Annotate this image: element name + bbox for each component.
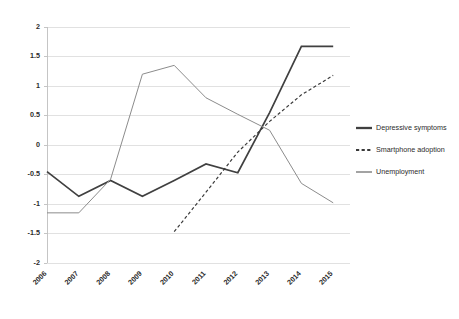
y-axis-tick-labels: 21.510.50-0.5-1-1.5-2 — [28, 22, 40, 267]
x-tick-label: 2014 — [285, 269, 303, 287]
series-line-depressive-symptoms — [47, 46, 333, 196]
line-chart: 21.510.50-0.5-1-1.5-2 200620072008200920… — [0, 0, 459, 319]
y-tick-label: 1.5 — [30, 51, 40, 60]
x-tick-label: 2009 — [126, 269, 144, 287]
legend-item-label: Smartphone adoption — [376, 145, 445, 154]
x-tick-label: 2007 — [63, 269, 81, 287]
series-line-smartphone-adoption — [174, 75, 333, 231]
x-tick-label: 2006 — [31, 269, 49, 287]
legend-item-label: Depressive symptoms — [376, 123, 447, 132]
y-tick-label: 0 — [36, 140, 40, 149]
legend-item-smartphone-adoption[interactable]: Smartphone adoption — [356, 145, 445, 154]
x-axis-tick-labels: 2006200720082009201020112012201320142015 — [31, 269, 335, 287]
legend-item-label: Unemployment — [376, 167, 424, 176]
y-tick-label: -1.5 — [28, 228, 40, 237]
x-tick-label: 2008 — [94, 269, 112, 287]
axes-group — [44, 27, 48, 263]
legend-item-unemployment[interactable]: Unemployment — [356, 167, 424, 176]
y-tick-label: 0.5 — [30, 110, 40, 119]
x-tick-label: 2012 — [222, 269, 240, 287]
gridlines-group — [47, 27, 350, 263]
y-tick-label: -2 — [34, 258, 40, 267]
y-tick-label: 2 — [36, 22, 40, 31]
x-tick-label: 2013 — [253, 269, 271, 287]
x-tick-label: 2010 — [158, 269, 176, 287]
y-tick-label: -0.5 — [28, 169, 40, 178]
x-tick-label: 2011 — [190, 269, 207, 286]
chart-legend: Depressive symptomsSmartphone adoptionUn… — [356, 123, 447, 176]
y-tick-label: -1 — [34, 199, 40, 208]
chart-canvas: 21.510.50-0.5-1-1.5-2 200620072008200920… — [0, 0, 459, 319]
y-tick-label: 1 — [36, 81, 40, 90]
x-tick-label: 2015 — [317, 269, 335, 287]
legend-item-depressive-symptoms[interactable]: Depressive symptoms — [356, 123, 447, 132]
